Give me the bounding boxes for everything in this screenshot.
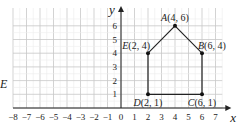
coordinate-plane: xy−8−7−6−5−4−3−2−101234567123456 A(4, 6)… xyxy=(0,0,250,128)
y-tick-label: 5 xyxy=(113,35,118,45)
x-axis-label: x xyxy=(229,110,236,125)
x-tick-label: −1 xyxy=(103,112,113,122)
point-c-marker xyxy=(200,92,204,96)
point-a-label: A(4, 6) xyxy=(160,12,189,24)
x-tick-label: −6 xyxy=(35,112,45,122)
y-tick-label: 4 xyxy=(113,48,118,58)
x-tick-label: −2 xyxy=(89,112,99,122)
y-tick-label: 6 xyxy=(113,21,118,31)
point-d-label: D(2, 1) xyxy=(133,97,163,109)
x-tick-label: 0 xyxy=(119,112,124,122)
y-axis-arrow-icon xyxy=(118,6,124,12)
grid xyxy=(13,8,222,108)
x-tick-label: 6 xyxy=(200,112,205,122)
x-tick-label: 2 xyxy=(146,112,151,122)
point-b-label: B(6, 4) xyxy=(198,40,226,52)
point-b-marker xyxy=(200,51,204,55)
point-e-marker xyxy=(146,51,150,55)
x-tick-label: 3 xyxy=(159,112,164,122)
x-tick-label: −3 xyxy=(76,112,86,122)
x-tick-label: 7 xyxy=(213,112,218,122)
x-tick-label: −4 xyxy=(62,112,72,122)
x-tick-label: −5 xyxy=(49,112,59,122)
point-e-label: E(2, 4) xyxy=(121,40,150,52)
y-tick-label: 3 xyxy=(113,62,118,72)
point-c-label: C(6, 1) xyxy=(188,97,216,109)
x-tick-label: 5 xyxy=(186,112,191,122)
y-axis-label: y xyxy=(107,2,115,17)
point-d-marker xyxy=(146,92,150,96)
x-tick-label: −8 xyxy=(8,112,18,122)
x-tick-label: 1 xyxy=(132,112,137,122)
y-tick-label: 2 xyxy=(113,76,118,86)
point-a-marker xyxy=(173,24,177,28)
x-tick-label: −7 xyxy=(22,112,32,122)
y-tick-label: 1 xyxy=(113,89,118,99)
x-tick-label: 4 xyxy=(173,112,178,122)
stray-label: E xyxy=(0,77,7,92)
